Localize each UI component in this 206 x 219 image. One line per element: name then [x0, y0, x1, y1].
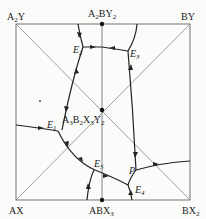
arrow-icon [86, 183, 91, 189]
dot-mark [39, 100, 41, 102]
arrow-icon [77, 32, 82, 38]
label-by: BY [181, 11, 195, 22]
phase-diagram: A2Y BY AX BX2 A2BY2 ABX3 A3B2X3Y2 E1 E2 … [0, 0, 206, 219]
label-a2y: A2Y [7, 11, 25, 24]
arrow-icon [90, 45, 96, 49]
curve-p-right [136, 161, 190, 170]
curve-e1-e5-e4 [58, 131, 128, 185]
curve-e2-e3 [83, 47, 128, 51]
node-center [100, 108, 104, 112]
label-ax: AX [9, 205, 24, 216]
label-e5: E5 [93, 158, 104, 171]
label-a2by2: A2BY2 [88, 8, 117, 21]
label-center-compound: A3B2X3Y2 [62, 114, 105, 127]
label-p: P [128, 165, 135, 176]
label-e3: E3 [129, 48, 140, 61]
label-abx3: ABX3 [89, 205, 114, 218]
arrow-icon [64, 106, 69, 112]
label-e2: E2 [72, 44, 83, 57]
label-e4: E4 [134, 184, 145, 197]
arrow-icon [109, 46, 115, 50]
arrow-icon [74, 68, 79, 74]
node-abx3 [100, 198, 104, 202]
node-a2by2 [100, 22, 104, 26]
curve-top-e3 [128, 24, 137, 51]
arrow-icon [38, 126, 44, 130]
label-bx2: BX2 [182, 205, 200, 218]
